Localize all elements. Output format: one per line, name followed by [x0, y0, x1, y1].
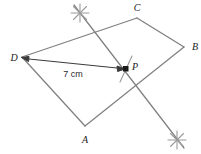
perpendicular-bisector-line — [74, 5, 184, 148]
vertex-label-C: C — [134, 2, 141, 13]
side-CB — [137, 18, 184, 47]
measure-label: 7 cm — [63, 69, 83, 79]
point-P-marker — [123, 66, 129, 72]
measure-arrow-shaft — [24, 59, 122, 69]
side-BA — [85, 47, 184, 126]
arc-cross-top-icon — [71, 4, 89, 22]
vertex-label-D: D — [9, 52, 18, 63]
vertex-label-A: A — [81, 134, 89, 145]
vertex-label-P: P — [131, 61, 138, 72]
side-DC — [22, 18, 137, 57]
figure-canvas: C B D A P 7 cm — [0, 0, 201, 154]
arc-cross-bottom-icon — [168, 131, 186, 149]
construction-line-group — [74, 5, 184, 148]
geometry-diagram: C B D A P 7 cm — [0, 0, 201, 154]
vertex-label-B: B — [192, 41, 198, 52]
side-AD — [22, 57, 85, 126]
quadrilateral-outline — [22, 18, 184, 126]
